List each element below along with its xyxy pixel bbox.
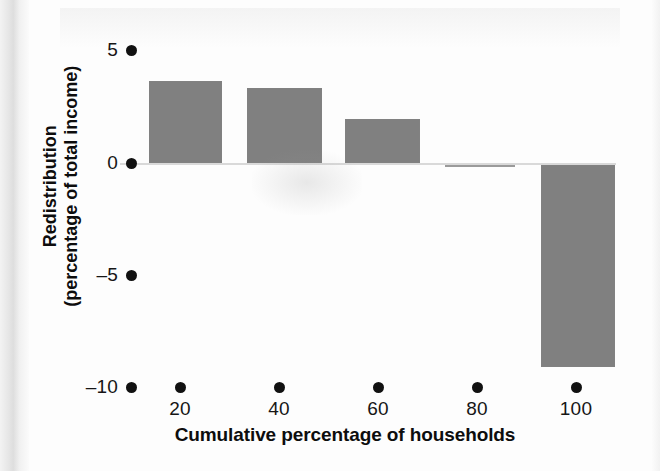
xtick-label-60: 60 — [338, 398, 418, 420]
x-axis-title: Cumulative percentage of households — [110, 424, 580, 446]
xtick-dot-20 — [175, 382, 186, 393]
xtick-label-20: 20 — [140, 398, 220, 420]
bar-60 — [345, 119, 420, 163]
y-axis-title: Redistribution (percentage of total inco… — [40, 21, 82, 351]
ytick-dot-neg10 — [126, 382, 137, 393]
chart-page: 5 0 –5 –10 20 40 60 80 100 Cumulative pe… — [0, 0, 660, 471]
bar-100 — [541, 165, 615, 367]
y-axis-title-line1: Redistribution — [40, 21, 61, 351]
xtick-dot-80 — [472, 382, 483, 393]
y-axis-title-line2: (percentage of total income) — [61, 21, 82, 351]
xtick-label-100: 100 — [536, 398, 616, 420]
bar-80 — [445, 165, 515, 167]
scan-top-shade — [60, 8, 620, 48]
bar-40 — [247, 88, 322, 163]
ytick-dot-neg5 — [126, 270, 137, 281]
xtick-dot-100 — [571, 382, 582, 393]
plot-area: 5 0 –5 –10 20 40 60 80 100 Cumulative pe… — [0, 0, 660, 471]
ytick-label-neg10: –10 — [52, 376, 118, 398]
xtick-label-80: 80 — [437, 398, 517, 420]
ytick-dot-0 — [126, 158, 137, 169]
xtick-dot-60 — [373, 382, 384, 393]
bar-20 — [149, 81, 222, 163]
xtick-label-40: 40 — [239, 398, 319, 420]
ytick-dot-5 — [126, 45, 137, 56]
xtick-dot-40 — [274, 382, 285, 393]
